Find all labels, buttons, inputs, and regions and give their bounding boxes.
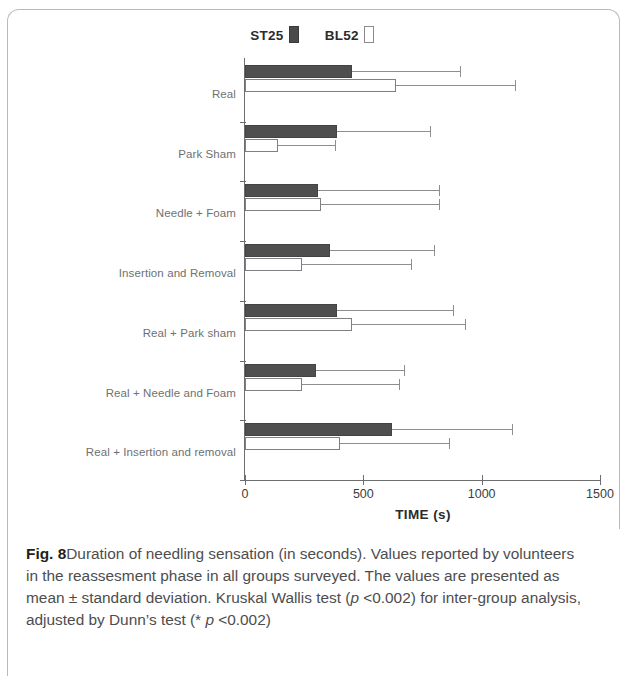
error-bar-bl52	[302, 384, 399, 385]
error-cap-bl52	[439, 199, 440, 210]
bar-st25	[245, 184, 318, 197]
figure-root: ST25 BL52 050010001500 RealPark ShamNeed…	[0, 0, 624, 677]
bar-bl52	[245, 318, 352, 331]
bar-group: Real	[245, 64, 601, 124]
caption-p-2: p	[205, 611, 214, 628]
bar-bl52	[245, 378, 302, 391]
error-cap-st25	[404, 365, 405, 376]
error-bar-bl52	[352, 324, 466, 325]
error-bar-st25	[392, 429, 513, 430]
bar-bl52	[245, 437, 340, 450]
error-bar-bl52	[302, 264, 411, 265]
bar-group: Real + Park sham	[245, 303, 601, 363]
figure-label: Fig. 8	[26, 545, 66, 562]
legend-label-bl52: BL52	[325, 28, 359, 43]
legend-label-st25: ST25	[250, 28, 283, 43]
x-axis-title: TIME (s)	[245, 507, 601, 522]
figure-caption: Fig. 8Duration of needling sensation (in…	[26, 543, 590, 631]
bar-bl52	[245, 198, 321, 211]
error-cap-st25	[439, 185, 440, 196]
bar-bl52	[245, 79, 396, 92]
bar-group: Real + Insertion and removal	[245, 422, 601, 482]
x-tick-label-1000: 1000	[468, 487, 496, 501]
category-label: Real + Needle and Foam	[106, 387, 236, 399]
x-tick-label-1500: 1500	[586, 487, 614, 501]
legend-entry-st25: ST25	[250, 27, 298, 44]
legend-swatch-st25	[289, 26, 299, 43]
caption-left-rule	[7, 528, 8, 676]
error-bar-bl52	[396, 85, 514, 86]
error-cap-st25	[453, 305, 454, 316]
caption-p-1: p	[350, 589, 359, 606]
legend-entry-bl52: BL52	[325, 27, 374, 44]
bar-st25	[245, 244, 330, 257]
category-label: Real + Park sham	[143, 327, 236, 339]
error-bar-st25	[330, 250, 434, 251]
bar-group: Insertion and Removal	[245, 243, 601, 303]
error-bar-st25	[352, 71, 461, 72]
bar-bl52	[245, 258, 302, 271]
plot-area: 050010001500 RealPark ShamNeedle + FoamI…	[245, 62, 601, 480]
bar-group: Needle + Foam	[245, 183, 601, 243]
error-bar-bl52	[321, 204, 439, 205]
error-cap-bl52	[465, 319, 466, 330]
category-label: Needle + Foam	[156, 207, 236, 219]
bar-st25	[245, 423, 392, 436]
bar-bl52	[245, 139, 278, 152]
error-bar-bl52	[340, 443, 449, 444]
bar-st25	[245, 65, 352, 78]
error-bar-st25	[337, 131, 429, 132]
x-tick-label-500: 500	[353, 487, 374, 501]
category-label: Park Sham	[178, 148, 236, 160]
error-cap-st25	[434, 245, 435, 256]
error-bar-st25	[318, 190, 439, 191]
bar-group: Real + Needle and Foam	[245, 363, 601, 423]
category-label: Real + Insertion and removal	[86, 446, 236, 458]
error-cap-bl52	[399, 379, 400, 390]
category-label: Real	[212, 88, 236, 100]
error-cap-st25	[460, 66, 461, 77]
error-cap-bl52	[335, 140, 336, 151]
error-cap-bl52	[411, 259, 412, 270]
caption-text-3: <0.002)	[214, 611, 271, 628]
error-cap-bl52	[449, 438, 450, 449]
chart-legend: ST25 BL52	[0, 27, 624, 44]
error-bar-st25	[316, 370, 404, 371]
legend-swatch-bl52	[364, 26, 374, 43]
error-bar-bl52	[278, 145, 335, 146]
category-label: Insertion and Removal	[119, 267, 236, 279]
error-cap-bl52	[515, 80, 516, 91]
x-tick-label-0: 0	[242, 487, 249, 501]
error-cap-st25	[430, 126, 431, 137]
error-cap-st25	[512, 424, 513, 435]
bar-st25	[245, 364, 316, 377]
bar-st25	[245, 125, 337, 138]
error-bar-st25	[337, 310, 453, 311]
bar-group: Park Sham	[245, 124, 601, 184]
bar-st25	[245, 304, 337, 317]
